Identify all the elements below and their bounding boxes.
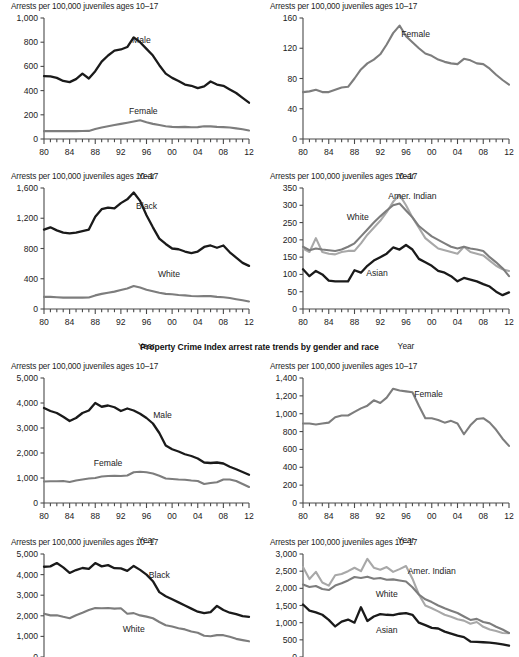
- plot-area-violent-race4: 050100150200250300350808488929600040812A…: [259, 183, 519, 339]
- svg-text:08: 08: [219, 511, 229, 521]
- svg-text:50: 50: [287, 287, 297, 297]
- svg-text:400: 400: [283, 462, 298, 472]
- series-label-white: White: [376, 589, 398, 599]
- svg-text:800: 800: [24, 244, 39, 254]
- svg-text:5,000: 5,000: [16, 549, 38, 559]
- svg-text:400: 400: [24, 86, 39, 96]
- svg-text:0: 0: [33, 498, 38, 508]
- chart-panel-property-gender: Arrests per 100,000 juveniles ages 10–17…: [0, 362, 259, 534]
- chart-svg-property-race4: 05001,0001,5002,0002,5003,000Amer. India…: [259, 549, 519, 657]
- chart-axis-header: Arrests per 100,000 juveniles ages 10–17: [11, 362, 259, 372]
- svg-text:100: 100: [283, 269, 298, 279]
- svg-text:1,600: 1,600: [16, 183, 38, 193]
- chart-svg-violent-race: 04008001,2001,600808488929600040812Black…: [0, 183, 259, 339]
- svg-text:2,500: 2,500: [275, 566, 297, 576]
- svg-text:250: 250: [283, 218, 298, 228]
- svg-text:88: 88: [90, 147, 100, 157]
- svg-text:1,500: 1,500: [275, 601, 297, 611]
- svg-text:120: 120: [283, 43, 298, 53]
- svg-text:350: 350: [283, 183, 298, 193]
- plot-area-property-race: 01,0002,0003,0004,0005,000BlackWhite: [0, 549, 259, 657]
- svg-text:88: 88: [350, 317, 360, 327]
- svg-text:80: 80: [287, 74, 297, 84]
- svg-text:600: 600: [24, 61, 39, 71]
- svg-text:2,000: 2,000: [16, 611, 38, 621]
- svg-text:08: 08: [219, 147, 229, 157]
- svg-text:80: 80: [298, 317, 308, 327]
- svg-text:500: 500: [283, 635, 298, 645]
- svg-text:80: 80: [298, 147, 308, 157]
- chart-svg-violent-female: 04080120160808488929600040812Female: [259, 13, 519, 169]
- series-label-male: Male: [132, 35, 151, 45]
- svg-text:00: 00: [427, 147, 437, 157]
- svg-text:88: 88: [90, 317, 100, 327]
- svg-text:12: 12: [244, 147, 254, 157]
- svg-text:08: 08: [478, 511, 488, 521]
- series-label-female: Female: [414, 389, 443, 399]
- svg-text:1,200: 1,200: [16, 213, 38, 223]
- svg-text:80: 80: [298, 511, 308, 521]
- svg-text:04: 04: [453, 511, 463, 521]
- plot-area-property-gender: 01,0002,0003,0004,0005,00080848892960004…: [0, 373, 259, 533]
- svg-text:04: 04: [453, 147, 463, 157]
- series-label-male: Male: [153, 410, 172, 420]
- svg-text:12: 12: [504, 317, 514, 327]
- series-label-white: White: [158, 269, 180, 279]
- series-label-female: Female: [401, 29, 430, 39]
- svg-text:96: 96: [142, 511, 152, 521]
- chart-axis-header: Arrests per 100,000 juveniles ages 10–17: [270, 538, 519, 548]
- chart-svg-violent-gender: 02004006008001,000808488929600040812Male…: [0, 13, 259, 169]
- svg-text:4,000: 4,000: [16, 570, 38, 580]
- series-label-asian: Asian: [376, 625, 398, 635]
- svg-text:04: 04: [193, 511, 203, 521]
- svg-text:08: 08: [478, 147, 488, 157]
- svg-text:2,000: 2,000: [275, 583, 297, 593]
- chart-axis-header: Arrests per 100,000 juveniles ages 10–17: [270, 362, 519, 372]
- svg-text:84: 84: [324, 147, 334, 157]
- chart-axis-header: Arrests per 100,000 juveniles ages 10–17: [270, 2, 519, 12]
- series-label-female: Female: [129, 106, 158, 116]
- svg-text:80: 80: [39, 511, 49, 521]
- svg-text:96: 96: [142, 147, 152, 157]
- svg-text:80: 80: [39, 317, 49, 327]
- svg-text:1,000: 1,000: [16, 473, 38, 483]
- section-title: Property Crime Index arrest rate trends …: [0, 342, 519, 352]
- chart-svg-property-female: 02004006008001,0001,2001,400808488929600…: [259, 373, 519, 533]
- plot-area-violent-female: 04080120160808488929600040812FemaleYear: [259, 13, 519, 169]
- svg-text:5,000: 5,000: [16, 373, 38, 383]
- chart-svg-property-race: 01,0002,0003,0004,0005,000BlackWhite: [0, 549, 259, 657]
- svg-text:84: 84: [65, 317, 75, 327]
- svg-text:150: 150: [283, 252, 298, 262]
- svg-text:92: 92: [116, 511, 126, 521]
- svg-text:3,000: 3,000: [16, 590, 38, 600]
- svg-text:84: 84: [324, 511, 334, 521]
- svg-text:12: 12: [504, 511, 514, 521]
- svg-text:300: 300: [283, 200, 298, 210]
- svg-text:08: 08: [219, 317, 229, 327]
- svg-text:0: 0: [33, 304, 38, 314]
- svg-text:800: 800: [283, 427, 298, 437]
- svg-text:04: 04: [453, 317, 463, 327]
- series-label-white: White: [123, 624, 145, 634]
- series-label-asian: Asian: [366, 268, 388, 278]
- svg-text:3,000: 3,000: [16, 423, 38, 433]
- svg-text:88: 88: [350, 511, 360, 521]
- chart-panel-violent-race: Arrests per 100,000 juveniles ages 10–17…: [0, 172, 259, 340]
- series-label-black: Black: [136, 201, 158, 211]
- series-label-white: White: [347, 212, 369, 222]
- svg-text:00: 00: [427, 511, 437, 521]
- svg-text:84: 84: [65, 147, 75, 157]
- svg-text:88: 88: [350, 147, 360, 157]
- series-label-black: Black: [149, 570, 171, 580]
- plot-area-violent-gender: 02004006008001,000808488929600040812Male…: [0, 13, 259, 169]
- svg-text:4,000: 4,000: [16, 398, 38, 408]
- svg-text:12: 12: [244, 511, 254, 521]
- svg-text:600: 600: [283, 444, 298, 454]
- chart-svg-violent-race4: 050100150200250300350808488929600040812A…: [259, 183, 519, 339]
- svg-text:92: 92: [116, 147, 126, 157]
- chart-axis-header: Arrests per 100,000 juveniles ages 10–17: [11, 2, 259, 12]
- chart-panel-violent-race4: Arrests per 100,000 juveniles ages 10–17…: [259, 172, 519, 340]
- svg-text:160: 160: [283, 13, 298, 23]
- svg-text:88: 88: [90, 511, 100, 521]
- series-label-female: Female: [94, 458, 123, 468]
